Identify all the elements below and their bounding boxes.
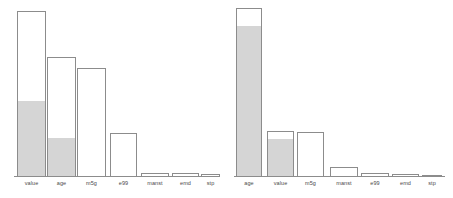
x-tick-label-left-1: age [47, 180, 76, 186]
x-tick-label-right-4: e99 [361, 180, 389, 186]
plot-area-right: age value m5g manst e99 emd stp [226, 0, 453, 198]
bar-left-1[interactable] [47, 57, 76, 177]
x-tick-label-left-5: emd [172, 180, 199, 186]
bar-left-4[interactable] [141, 173, 169, 177]
chart-panel-right: age value m5g manst e99 emd stp [226, 0, 453, 198]
x-tick-label-right-5: emd [392, 180, 419, 186]
bar-right-2[interactable] [297, 132, 324, 177]
bar-right-3[interactable] [330, 167, 358, 177]
x-tick-label-right-2: m5g [297, 180, 324, 186]
bar-left-5[interactable] [172, 173, 199, 177]
variable-importance-figure: value age m5g e99 manst emd stp [0, 0, 453, 198]
x-tick-label-left-6: stp [199, 180, 222, 186]
bar-left-3[interactable] [110, 133, 137, 177]
bar-fill-left-1 [48, 138, 75, 176]
plot-area-left: value age m5g e99 manst emd stp [0, 0, 226, 198]
bar-right-6[interactable] [422, 175, 442, 177]
x-tick-label-left-4: manst [141, 180, 169, 186]
bar-left-2[interactable] [77, 68, 106, 177]
x-tick-label-right-0: age [236, 180, 262, 186]
x-tick-label-right-1: value [267, 180, 294, 186]
x-tick-label-left-3: e99 [110, 180, 137, 186]
x-tick-label-right-3: manst [330, 180, 358, 186]
bar-right-0[interactable] [236, 8, 262, 177]
bar-fill-right-0 [237, 26, 261, 176]
bar-fill-right-1 [268, 139, 293, 176]
bar-right-5[interactable] [392, 174, 419, 177]
chart-panel-left: value age m5g e99 manst emd stp [0, 0, 226, 198]
bar-right-1[interactable] [267, 131, 294, 177]
x-tick-label-left-2: m5g [77, 180, 106, 186]
bar-right-4[interactable] [361, 173, 389, 177]
x-tick-label-left-0: value [17, 180, 46, 186]
bar-fill-left-0 [18, 101, 45, 176]
bar-left-0[interactable] [17, 11, 46, 177]
x-tick-label-right-6: stp [420, 180, 444, 186]
bar-left-6[interactable] [201, 174, 220, 177]
